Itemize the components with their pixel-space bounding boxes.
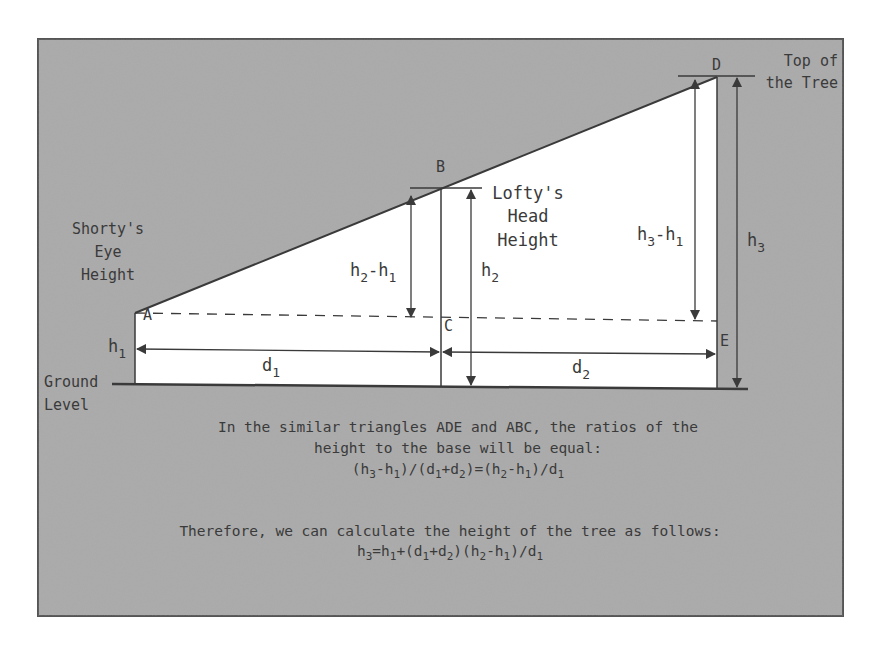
point-D-label: D bbox=[712, 56, 721, 74]
caption-line-3: Therefore, we can calculate the height o… bbox=[179, 523, 720, 539]
svg-text:Height: Height bbox=[497, 230, 558, 250]
similar-triangles-diagram: A B C D E Shorty's Eye Height Lofty's He… bbox=[0, 0, 886, 645]
point-E-label: E bbox=[720, 332, 729, 350]
svg-text:the Tree: the Tree bbox=[766, 74, 838, 92]
svg-text:Height: Height bbox=[81, 266, 135, 284]
point-A-label: A bbox=[143, 306, 152, 324]
svg-text:Lofty's: Lofty's bbox=[492, 183, 564, 203]
svg-text:Shorty's: Shorty's bbox=[72, 220, 144, 238]
svg-text:Eye: Eye bbox=[94, 243, 121, 261]
svg-text:Head: Head bbox=[508, 206, 549, 226]
caption-line-1: In the similar triangles ADE and ABC, th… bbox=[218, 419, 698, 435]
point-B-label: B bbox=[436, 158, 445, 176]
svg-text:Ground: Ground bbox=[44, 373, 98, 391]
svg-text:Top of: Top of bbox=[784, 52, 838, 70]
point-C-label: C bbox=[444, 317, 453, 335]
caption-line-2: height to the base will be equal: bbox=[314, 440, 602, 456]
svg-text:Level: Level bbox=[44, 396, 89, 414]
